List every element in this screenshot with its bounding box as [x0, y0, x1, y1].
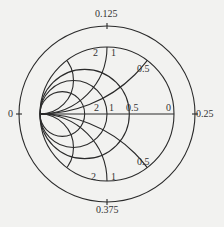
susceptance-label-bottom-2: 2 [91, 172, 96, 182]
axis-end-label: 0 [166, 103, 171, 113]
wavelength-label-right: 0.25 [196, 109, 214, 119]
susceptance-arc-top-1 [0, 0, 107, 114]
susceptance-label-bottom-0.5: 0.5 [137, 157, 150, 167]
susceptance-arc-top-0.5 [0, 0, 174, 114]
conductance-label-2: 2 [94, 103, 99, 113]
wavelength-label-bottom: 0.375 [96, 205, 119, 215]
wavelength-label-left: 0 [8, 109, 13, 119]
smith-chart-diagram: 0.125 0 0.25 0.375 2 1 0.5 0 2 1 0.5 2 1… [0, 0, 224, 227]
susceptance-label-top-0.5: 0.5 [137, 64, 150, 74]
wavelength-label-top: 0.125 [95, 9, 118, 19]
susceptance-label-bottom-1: 1 [111, 172, 116, 182]
susceptance-arc-bottom-0.5 [0, 114, 174, 227]
conductance-label-1: 1 [109, 103, 114, 113]
susceptance-label-top-1: 1 [111, 48, 116, 58]
conductance-label-0.5: 0.5 [126, 103, 139, 113]
smith-chart-graphic [0, 0, 224, 227]
susceptance-label-top-2: 2 [93, 48, 98, 58]
